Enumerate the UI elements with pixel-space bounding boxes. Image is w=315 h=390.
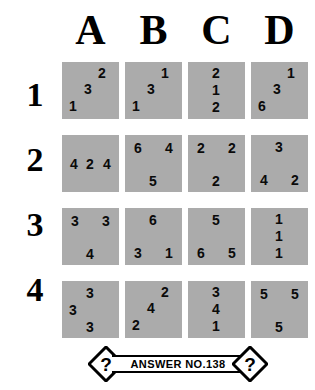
cell-digit: 2 xyxy=(209,174,223,188)
cell-digit: 3 xyxy=(270,82,284,96)
row-label-1: 1 xyxy=(14,62,56,127)
cell-digit: 2 xyxy=(288,173,302,187)
cell-digit: 1 xyxy=(129,99,143,113)
cell-b3[interactable]: 6 3 1 xyxy=(125,208,182,265)
cell-a3[interactable]: 3 3 4 xyxy=(62,208,119,265)
cell-digit: 5 xyxy=(225,246,239,260)
cell-a1[interactable]: 2 3 1 xyxy=(62,62,119,119)
cell-digit: 4 xyxy=(67,157,81,171)
cell-digit: 4 xyxy=(162,141,176,155)
cell-digit: 5 xyxy=(272,320,286,334)
cell-digit: 1 xyxy=(272,212,286,226)
row-label-4: 4 xyxy=(14,257,56,322)
column-header-c: C xyxy=(188,4,245,56)
cell-digit: 3 xyxy=(144,82,158,96)
row-label-3: 3 xyxy=(14,192,56,257)
cell-digit: 3 xyxy=(209,285,223,299)
column-header-b: B xyxy=(125,4,182,56)
column-header-d: D xyxy=(251,4,308,56)
cell-d4[interactable]: 5 5 5 xyxy=(251,281,308,338)
cell-digit: 3 xyxy=(81,82,95,96)
cell-a2[interactable]: 4 2 4 xyxy=(62,135,119,192)
cell-digit: 6 xyxy=(131,141,145,155)
cell-d3[interactable]: 1 1 1 xyxy=(251,208,308,265)
cell-digit: 4 xyxy=(83,247,97,261)
cell-digit: 2 xyxy=(158,285,172,299)
cell-d1[interactable]: 1 3 6 xyxy=(251,62,308,119)
cell-digit: 1 xyxy=(158,66,172,80)
cell-digit: 1 xyxy=(162,246,176,260)
cell-digit: 3 xyxy=(272,140,286,154)
cell-digit: 5 xyxy=(257,287,271,301)
cell-c2[interactable]: 2 2 2 xyxy=(188,135,245,192)
cell-digit: 2 xyxy=(95,66,109,80)
cell-digit: 4 xyxy=(144,301,158,315)
cell-digit: 3 xyxy=(83,286,97,300)
cell-digit: 3 xyxy=(66,303,80,317)
cell-digit: 1 xyxy=(272,246,286,260)
cell-digit: 6 xyxy=(146,213,160,227)
puzzle-container: A B C D 1 2 3 4 2 3 1 1 3 1 2 1 2 xyxy=(0,0,315,390)
answer-label: ANSWER NO.138 xyxy=(112,355,244,373)
puzzle-grid: 2 3 1 1 3 1 2 1 2 1 3 6 4 xyxy=(62,62,308,330)
cell-b2[interactable]: 6 4 5 xyxy=(125,135,182,192)
cell-c4[interactable]: 3 4 1 xyxy=(188,281,245,338)
cell-digit: 2 xyxy=(209,100,223,114)
left-question-mark: ? xyxy=(100,354,112,375)
cell-digit: 5 xyxy=(288,287,302,301)
cell-digit: 1 xyxy=(66,99,80,113)
column-header-a: A xyxy=(62,4,119,56)
grid-row-2: 4 2 4 6 4 5 2 2 2 3 4 2 xyxy=(62,135,308,200)
cell-digit: 3 xyxy=(131,246,145,260)
cell-digit: 2 xyxy=(225,141,239,155)
row-label-2: 2 xyxy=(14,127,56,192)
cell-digit: 2 xyxy=(83,157,97,171)
cell-digit: 3 xyxy=(83,320,97,334)
cell-c3[interactable]: 5 6 5 xyxy=(188,208,245,265)
cell-digit: 4 xyxy=(209,302,223,316)
right-question-mark: ? xyxy=(244,354,256,375)
grid-row-3: 3 3 4 6 3 1 5 6 5 1 1 1 xyxy=(62,208,308,273)
cell-digit: 5 xyxy=(209,213,223,227)
column-header-row: A B C D xyxy=(62,4,308,56)
cell-digit: 1 xyxy=(209,319,223,333)
cell-c1[interactable]: 2 1 2 xyxy=(188,62,245,119)
cell-b4[interactable]: 2 4 2 xyxy=(125,281,182,338)
cell-digit: 4 xyxy=(257,173,271,187)
cell-digit: 4 xyxy=(100,157,114,171)
cell-digit: 3 xyxy=(68,214,82,228)
cell-digit: 1 xyxy=(209,83,223,97)
cell-digit: 2 xyxy=(129,318,143,332)
cell-digit: 1 xyxy=(284,66,298,80)
question-mark-diamond-right-icon: ? xyxy=(232,346,268,382)
cell-digit: 6 xyxy=(255,99,269,113)
cell-digit: 2 xyxy=(209,66,223,80)
cell-digit: 1 xyxy=(272,229,286,243)
cell-digit: 5 xyxy=(146,174,160,188)
cell-a4[interactable]: 3 3 3 xyxy=(62,281,119,338)
grid-row-1: 2 3 1 1 3 1 2 1 2 1 3 6 xyxy=(62,62,308,127)
row-label-column: 1 2 3 4 xyxy=(14,62,56,330)
cell-digit: 2 xyxy=(194,141,208,155)
cell-digit: 3 xyxy=(99,214,113,228)
answer-banner: ? ANSWER NO.138 ? xyxy=(88,346,268,382)
cell-d2[interactable]: 3 4 2 xyxy=(251,135,308,192)
cell-b1[interactable]: 1 3 1 xyxy=(125,62,182,119)
cell-digit: 6 xyxy=(194,246,208,260)
grid-row-4: 3 3 3 2 4 2 3 4 1 5 5 5 xyxy=(62,281,308,346)
